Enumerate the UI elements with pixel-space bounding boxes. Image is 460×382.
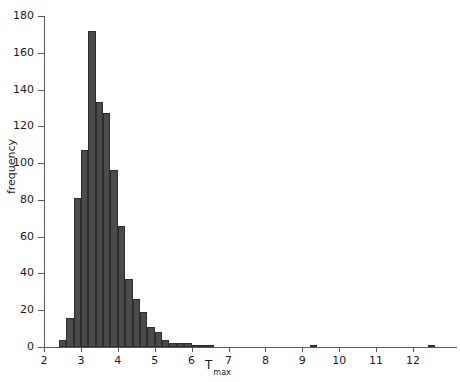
y-axis-title: frequency [5, 132, 18, 202]
histogram-bar [206, 345, 213, 347]
plot-area: 020406080100120140160180 23456789101112 … [0, 0, 460, 382]
histogram-bar [118, 226, 125, 347]
x-axis-title-base: T [205, 358, 212, 372]
histogram-bar [184, 343, 191, 347]
histogram-bar [103, 113, 110, 347]
histogram-bar [140, 312, 147, 347]
histogram-bar [88, 31, 95, 347]
histogram-bars [0, 0, 460, 382]
histogram-bar [147, 327, 154, 347]
histogram-bar [96, 102, 103, 347]
histogram-bar [169, 343, 176, 347]
histogram-bar [162, 340, 169, 347]
histogram-bar [177, 343, 184, 347]
histogram-bar [66, 318, 73, 347]
x-axis-title: Tmax [205, 358, 230, 374]
histogram-bar [81, 150, 88, 347]
histogram-bar [155, 332, 162, 347]
histogram-bar [428, 345, 435, 347]
histogram-bar [125, 279, 132, 347]
histogram-bar [199, 345, 206, 347]
x-axis-title-subscript: max [213, 368, 230, 377]
histogram-bar [192, 345, 199, 347]
histogram-bar [59, 340, 66, 347]
histogram-bar [74, 198, 81, 347]
histogram-bar [110, 170, 117, 347]
histogram-bar [133, 299, 140, 347]
histogram-figure: 020406080100120140160180 23456789101112 … [0, 0, 460, 382]
histogram-bar [310, 345, 317, 347]
